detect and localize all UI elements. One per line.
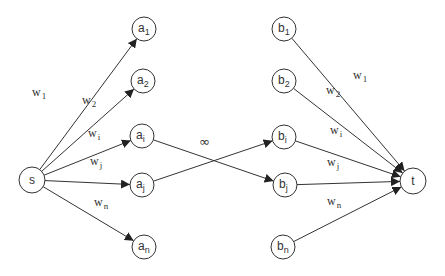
edge-s-aj — [45, 181, 130, 185]
node-s: s — [19, 167, 45, 193]
edge-s-an — [43, 187, 134, 241]
node-b2: b2 — [272, 69, 296, 93]
node-a1: a1 — [132, 17, 156, 41]
node-bi: bi — [272, 125, 296, 149]
edge-weight-label: wi — [88, 126, 101, 142]
edge-weight-label: wn — [327, 194, 342, 210]
infinity-capacity-label: ∞ — [199, 134, 210, 149]
edge-bj-t — [297, 181, 400, 184]
edge-weight-label: w2 — [326, 83, 340, 99]
edge-weight-label: wj — [90, 154, 102, 170]
node-ai: ai — [130, 124, 154, 148]
edge-b1-t — [292, 38, 405, 171]
flow-network-diagram: w1w2wiwjwnw1w2wiwjwn sa1a2aiajanb1b2bibj… — [0, 0, 445, 276]
nodes-layer: sa1a2aiajanb1b2bibjbnt — [19, 17, 426, 259]
node-bj: bj — [273, 173, 297, 197]
node-aj: aj — [130, 173, 154, 197]
node-b1: b1 — [272, 17, 296, 41]
node-t: t — [400, 168, 426, 194]
edge-weight-label: wj — [327, 155, 339, 171]
edge-weight-label: w1 — [32, 85, 46, 101]
node-an: an — [132, 235, 156, 259]
edge-weight-label: w2 — [82, 93, 96, 109]
edge-b2-t — [293, 88, 402, 173]
edge-bn-t — [294, 187, 402, 242]
node-a2: a2 — [131, 69, 155, 93]
node-label: s — [29, 173, 35, 187]
node-bn: bn — [271, 235, 295, 259]
edge-weight-label: wn — [94, 195, 109, 211]
edge-weight-label: w1 — [353, 68, 367, 84]
